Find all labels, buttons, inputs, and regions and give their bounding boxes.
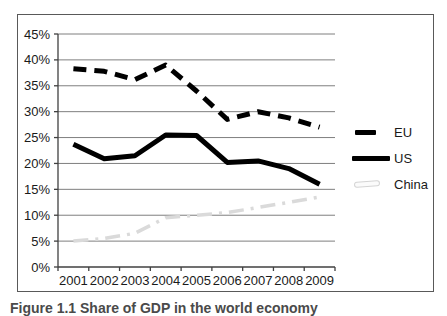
us-solid-line-icon [352,156,390,161]
svg-text:2009: 2009 [305,273,334,288]
svg-text:15%: 15% [24,182,50,197]
legend-label-us: US [390,151,412,166]
svg-text:2003: 2003 [120,273,149,288]
svg-text:2006: 2006 [213,273,242,288]
legend-item-china: China [352,171,432,197]
svg-text:30%: 30% [24,104,50,119]
svg-text:2007: 2007 [244,273,273,288]
svg-text:0%: 0% [31,260,50,275]
figure-caption: Figure 1.1 Share of GDP in the world eco… [10,300,440,316]
svg-text:25%: 25% [24,130,50,145]
svg-text:10%: 10% [24,208,50,223]
legend-label-china: China [390,177,428,192]
legend-item-us: US [352,145,432,171]
china-dashed-line-icon [354,180,380,188]
svg-text:2005: 2005 [182,273,211,288]
eu-dashed-line-icon [355,130,376,135]
series-eu [73,65,319,127]
svg-text:2008: 2008 [274,273,303,288]
svg-text:2004: 2004 [151,273,180,288]
china-line-sample-box [352,181,390,187]
legend-label-eu: EU [390,125,412,140]
svg-text:40%: 40% [24,52,50,67]
svg-text:5%: 5% [31,234,50,249]
series-us [73,135,319,184]
svg-text:35%: 35% [24,78,50,93]
series-china [73,197,319,241]
svg-text:20%: 20% [24,156,50,171]
svg-text:2001: 2001 [59,273,88,288]
us-line-sample-box [352,156,390,161]
chart-frame: 0%5%10%15%20%25%30%35%40%45%200120022003… [17,14,434,292]
svg-text:45%: 45% [24,27,50,42]
svg-text:2002: 2002 [90,273,119,288]
y-axis-labels: 0%5%10%15%20%25%30%35%40%45% [24,27,50,275]
legend-item-eu: EU [352,119,432,145]
legend: EU US China [352,119,432,197]
x-axis-labels: 200120022003200420052006200720082009 [59,273,334,288]
eu-line-sample-box [352,130,390,135]
